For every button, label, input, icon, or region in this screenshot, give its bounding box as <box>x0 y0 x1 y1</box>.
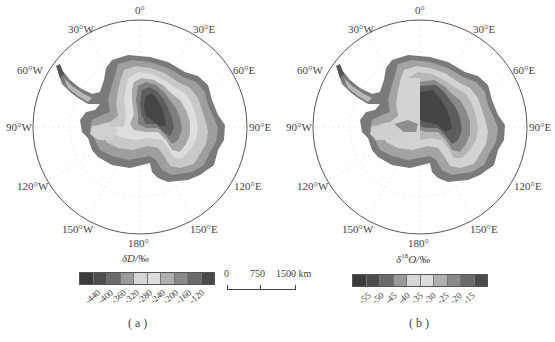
colorbar-swatch <box>380 275 394 286</box>
colorbar-swatch <box>134 273 148 284</box>
colorbar-swatch <box>161 273 175 284</box>
lon-label-120e: 120°E <box>234 180 262 192</box>
lon-label-0: 0° <box>415 4 425 16</box>
panel-b: 0° 30°E 60°E 90°E 120°E 150°E 180° 150°W… <box>280 0 555 342</box>
scale-bar-midtick <box>260 285 261 289</box>
colorbar-swatch <box>475 275 488 286</box>
colorbar-swatch <box>94 273 108 284</box>
lon-label-120w: 120°W <box>297 180 328 192</box>
colorbar-swatch <box>107 273 121 284</box>
colorbar-swatch <box>461 275 475 286</box>
lon-label-60w: 60°W <box>17 64 43 76</box>
colorbar-swatch <box>407 275 421 286</box>
colorbar-swatch <box>448 275 462 286</box>
lon-label-180: 180° <box>128 237 149 249</box>
lon-label-90e: 90°E <box>529 121 551 133</box>
lon-label-150w: 150°W <box>62 223 93 235</box>
colorbar-tick: -15 <box>461 290 477 305</box>
polar-map-b <box>280 0 555 250</box>
lon-label-120w: 120°W <box>17 180 48 192</box>
lon-label-90w: 90°W <box>6 121 32 133</box>
antarctica-contours-a <box>56 55 225 182</box>
caption-a: ( a ) <box>128 316 147 331</box>
polar-map-a <box>0 0 280 250</box>
lon-label-60e: 60°E <box>513 64 535 76</box>
lon-label-180: 180° <box>408 237 429 249</box>
colorbar-swatch <box>175 273 189 284</box>
lon-label-150w: 150°W <box>342 223 373 235</box>
variable-label-a: δD/‰ <box>122 252 149 264</box>
lon-label-150e: 150°E <box>190 223 218 235</box>
colorbar-swatch <box>121 273 135 284</box>
lon-label-0: 0° <box>135 4 145 16</box>
lon-label-30w: 30°W <box>348 23 374 35</box>
colorbar-swatch <box>421 275 435 286</box>
variable-label-b: δ18O/‰ <box>396 252 430 265</box>
lon-label-150e: 150°E <box>470 223 498 235</box>
colorbar-swatch <box>394 275 408 286</box>
antarctica-contours-b <box>336 55 505 182</box>
lon-label-30w: 30°W <box>68 23 94 35</box>
colorbar-swatch <box>202 273 215 284</box>
colorbar-swatch <box>434 275 448 286</box>
lon-label-30e: 30°E <box>193 23 215 35</box>
lon-label-30e: 30°E <box>473 23 495 35</box>
colorbar-swatch <box>188 273 202 284</box>
lon-label-120e: 120°E <box>514 180 542 192</box>
lon-label-90w: 90°W <box>286 121 312 133</box>
caption-b: ( b ) <box>409 316 429 331</box>
scale-label-0: 0 <box>224 268 229 279</box>
colorbar-swatch <box>80 273 94 284</box>
lon-label-60w: 60°W <box>297 64 323 76</box>
colorbar-b <box>352 274 488 287</box>
colorbar-swatch <box>353 275 367 286</box>
colorbar-a <box>79 272 215 285</box>
colorbar-swatch <box>148 273 162 284</box>
lon-label-90e: 90°E <box>249 121 271 133</box>
scale-label-750: 750 <box>250 268 265 279</box>
colorbar-swatch <box>367 275 381 286</box>
lon-label-60e: 60°E <box>233 64 255 76</box>
